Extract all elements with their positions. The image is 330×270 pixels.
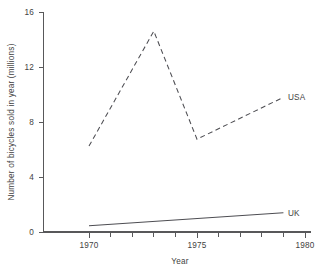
y-tick-label-12: 12 xyxy=(24,63,34,72)
y-tick-label-0: 0 xyxy=(29,228,34,237)
x-tick-marks xyxy=(89,232,305,238)
bicycle-sales-line-chart: 16 12 8 4 0 1970 1975 1980 Year Number o… xyxy=(0,0,330,270)
x-tick-label-1970: 1970 xyxy=(79,241,98,250)
x-tick-label-1980: 1980 xyxy=(295,241,314,250)
chart-canvas: 16 12 8 4 0 1970 1975 1980 Year Number o… xyxy=(0,0,330,270)
y-tick-label-4: 4 xyxy=(29,173,34,182)
x-tick-label-1975: 1975 xyxy=(187,241,206,250)
series-line-usa xyxy=(89,31,283,146)
y-tick-label-8: 8 xyxy=(29,118,34,127)
series-line-uk xyxy=(89,213,283,226)
y-axis-title: Number of bicycles sold in year (million… xyxy=(7,43,16,200)
x-axis-title: Year xyxy=(171,257,188,266)
y-tick-marks xyxy=(39,12,44,232)
series-label-usa: USA xyxy=(288,93,306,102)
y-tick-label-16: 16 xyxy=(24,8,34,17)
series-label-uk: UK xyxy=(288,209,300,218)
